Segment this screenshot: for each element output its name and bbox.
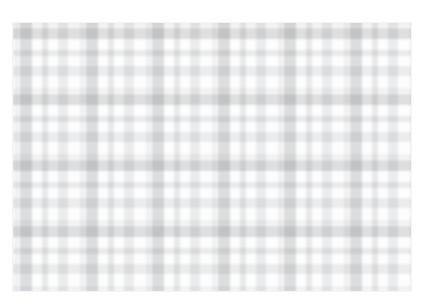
header-fragment-3: — ——— —— (138, 0, 208, 4)
page-header: — —— —— —— — ——— —— ——— —— — — (0, 0, 427, 12)
header-fragment-1: — —— (18, 0, 53, 4)
weft-stripe-narrow-b (12, 22, 412, 292)
header-fragment-2: —— —— (73, 0, 119, 4)
header-fragment-4: ——— —— — — (228, 0, 312, 4)
tartan-pattern-swatch (12, 22, 412, 292)
header-text-line: — —— —— —— — ——— —— ——— —— — — (18, 0, 410, 5)
